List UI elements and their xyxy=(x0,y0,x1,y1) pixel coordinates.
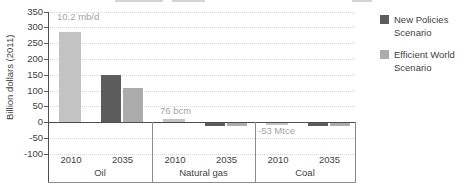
y-tick-label: -100 xyxy=(13,149,43,159)
bar-natural-gas-2035-ews xyxy=(227,123,247,126)
bar-oil-2035-ews xyxy=(123,88,143,122)
category-divider xyxy=(152,122,153,182)
bar-natural-gas-2035-nps xyxy=(205,123,225,126)
y-tick-label: 350 xyxy=(13,7,43,17)
category-year-label: 2010 xyxy=(51,154,91,165)
bar-coal-2035-ews xyxy=(330,123,350,126)
y-tick-label: 200 xyxy=(13,54,43,64)
bar-oil-2035-nps xyxy=(101,75,121,122)
gridline xyxy=(48,138,355,139)
legend-label: New Policies Scenario xyxy=(394,13,464,39)
legend: New Policies ScenarioEfficient World Sce… xyxy=(380,13,464,74)
category-divider xyxy=(255,122,256,182)
bar-oil-2010 xyxy=(59,32,81,122)
group-label: Coal xyxy=(265,167,345,178)
y-tick-label: 0 xyxy=(13,117,43,127)
gridline xyxy=(48,75,355,76)
category-year-label: 2010 xyxy=(258,154,298,165)
gridline xyxy=(48,106,355,107)
group-label: Oil xyxy=(60,167,140,178)
crop-artifact xyxy=(172,0,205,2)
category-year-label: 2010 xyxy=(155,154,195,165)
legend-item: Efficient World Scenario xyxy=(380,48,464,74)
gridline xyxy=(48,27,355,28)
annotation-natural-gas: 76 bcm xyxy=(160,106,191,116)
legend-swatch xyxy=(380,50,389,59)
group-label: Natural gas xyxy=(164,167,244,178)
gridline xyxy=(48,43,355,44)
legend-item: New Policies Scenario xyxy=(380,13,464,39)
category-year-label: 2035 xyxy=(207,154,247,165)
legend-swatch xyxy=(380,15,389,24)
gridline xyxy=(48,59,355,60)
y-tick-label: 300 xyxy=(13,22,43,32)
crop-artifact xyxy=(352,0,372,2)
annotation-coal: -53 Mtce xyxy=(258,126,295,136)
bar-coal-2035-nps xyxy=(308,123,328,126)
category-box-bottom xyxy=(48,182,356,183)
y-axis-line xyxy=(48,12,49,183)
y-tick-label: 250 xyxy=(13,38,43,48)
legend-label: Efficient World Scenario xyxy=(394,48,464,74)
bar-natural-gas-2010 xyxy=(163,119,185,122)
y-tick-label: 100 xyxy=(13,86,43,96)
y-tick-label: 150 xyxy=(13,70,43,80)
y-tick-label: 50 xyxy=(13,101,43,111)
gridline xyxy=(48,91,355,92)
crop-artifact xyxy=(115,0,163,2)
category-year-label: 2035 xyxy=(310,154,350,165)
y-tick-label: -50 xyxy=(13,133,43,143)
category-divider xyxy=(355,122,356,182)
annotation-oil: 10.2 mb/d xyxy=(57,12,99,22)
category-year-label: 2035 xyxy=(103,154,143,165)
bar-chart: Billion dollars (2011) 35030025020015010… xyxy=(0,0,465,192)
